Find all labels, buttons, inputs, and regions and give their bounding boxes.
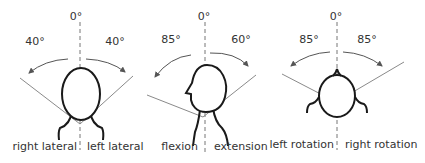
zero-degree-label: 0°: [198, 10, 211, 23]
flexion-arrow: [155, 55, 191, 77]
right-lateral-angle: 40°: [25, 35, 45, 48]
left-shoulder-outline: [307, 97, 319, 113]
panel-flexion-extension: 0° 85° 60° flexion extension: [147, 10, 268, 153]
neck-range-of-motion-diagram: 0° 40° 40° right lateral left lateral 0°…: [0, 0, 425, 163]
right-rotation-caption: right rotation: [345, 138, 418, 151]
flexion-angle: 85°: [161, 33, 181, 46]
right-lateral-arrow: [29, 59, 68, 73]
right-rotation-arrow: [343, 52, 382, 66]
left-lateral-angle: 40°: [105, 35, 125, 48]
head-side-profile: [186, 65, 226, 112]
right-lateral-caption: right lateral: [12, 140, 77, 153]
zero-degree-label: 0°: [330, 10, 343, 23]
left-rotation-arrow: [291, 52, 330, 66]
head-front-view: [62, 68, 100, 120]
left-rotation-angle: 85°: [299, 33, 319, 46]
left-rotation-caption: left rotation: [270, 138, 334, 151]
panel-rotation: 0° 85° 85° left rotation right rotation: [270, 10, 418, 151]
extension-arrow: [210, 53, 248, 66]
zero-degree-label: 0°: [70, 10, 83, 23]
right-rotation-angle: 85°: [357, 33, 377, 46]
head-top-view: [319, 75, 355, 117]
right-shoulder-outline: [355, 97, 367, 113]
extension-caption: extension: [214, 140, 268, 153]
flexion-caption: flexion: [161, 140, 198, 153]
panel-lateral: 0° 40° 40° right lateral left lateral: [12, 10, 143, 153]
extension-angle: 60°: [231, 33, 251, 46]
left-lateral-caption: left lateral: [87, 140, 144, 153]
left-lateral-arrow: [86, 59, 125, 72]
